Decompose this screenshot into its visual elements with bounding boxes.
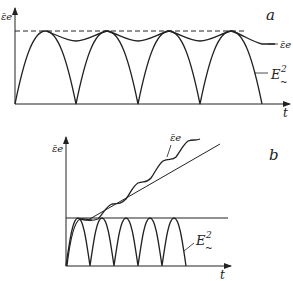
panel-a-label: a (266, 6, 275, 24)
panel-b-mean-energy-curve (80, 139, 200, 221)
panel-b-e2-label: E 2 ~ (195, 230, 213, 253)
panel-a-y-axis-label: ε̄e (1, 11, 12, 22)
panel-a-e2-curve (15, 31, 262, 104)
panel-b-e2-leader (184, 243, 194, 251)
panel-b-label: b (269, 146, 279, 164)
panel-b-mean-energy-label: ε̄e (170, 132, 181, 143)
diagram-canvas: a t ε̄e ε̄e E 2 ~ b t ε̄e ε̄e E 2 (0, 0, 293, 281)
panel-b-e2-curve (66, 218, 186, 266)
panel-b-y-axis-label: ε̄e (52, 143, 63, 154)
svg-text:~: ~ (280, 77, 288, 87)
panel-b-trend-line (88, 144, 220, 220)
svg-text:~: ~ (205, 243, 213, 253)
svg-text:2: 2 (280, 64, 287, 74)
panel-a-e2-label: E 2 ~ (270, 64, 288, 87)
panel-b-x-axis-label: t (220, 268, 225, 281)
panel-b: b t ε̄e ε̄e E 2 ~ (52, 132, 279, 281)
panel-b-initial-rise (67, 219, 92, 266)
svg-text:2: 2 (205, 230, 212, 240)
panel-a-mean-energy-label: ε̄e (280, 39, 291, 50)
panel-b-mean-leader (167, 145, 171, 157)
panel-a-x-axis-label: t (283, 106, 288, 120)
panel-a: a t ε̄e ε̄e E 2 ~ (1, 6, 291, 120)
